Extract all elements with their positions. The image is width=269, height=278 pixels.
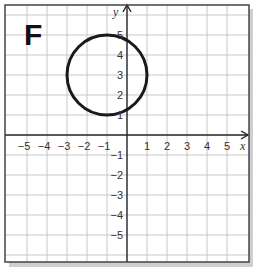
coordinate-graph-figure: −5 −4 −3 −2 −1 1 2 3 4 5 x 1 2 3 4 5 −1 … [0,0,269,278]
y-tick-label: −4 [110,209,123,221]
x-tick-label: −4 [38,140,51,152]
x-tick-label: −5 [18,140,31,152]
y-axis-label: y [112,5,119,19]
x-tick-label: −3 [58,140,71,152]
x-tick-label: 3 [184,140,190,152]
y-tick-label: 1 [117,109,123,121]
x-tick-label: 2 [164,140,170,152]
x-tick-label: 1 [144,140,150,152]
x-tick-label: −1 [98,140,111,152]
x-axis-label: x [239,139,246,153]
x-tick-label: 5 [224,140,230,152]
y-tick-label: −1 [110,149,123,161]
y-tick-label: 4 [117,49,123,61]
x-tick-label: 4 [204,140,210,152]
y-tick-label: 3 [117,69,123,81]
y-tick-label: −5 [110,229,123,241]
y-tick-label: 2 [117,89,123,101]
y-tick-label: 5 [117,29,123,41]
x-tick-label: −2 [78,140,91,152]
y-tick-label: −3 [110,189,123,201]
y-tick-label: −2 [110,169,123,181]
panel-label: F [24,20,42,50]
